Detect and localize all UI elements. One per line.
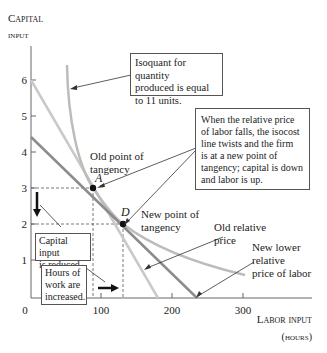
- x-axis-title-line2: (hours): [282, 331, 312, 343]
- y-axis-title-line2: input: [8, 29, 29, 40]
- twist-box-line: of labor falls, the isocost: [201, 126, 304, 138]
- svg-text:0: 0: [22, 304, 28, 316]
- svg-text:1: 1: [22, 254, 28, 266]
- isoquant-annotation-box: Isoquant for quantity produced is equal …: [130, 53, 223, 96]
- hours-increased-box: Hours of work are increased.: [41, 265, 87, 305]
- point-d-label: D: [120, 205, 130, 219]
- y-axis-title-line1: Capital: [8, 12, 43, 24]
- svg-text:4: 4: [22, 146, 28, 158]
- new-price-line: price of labor: [252, 267, 311, 280]
- new-tangency-line: New point of: [141, 208, 199, 221]
- svg-text:200: 200: [164, 304, 181, 316]
- svg-text:6: 6: [22, 74, 28, 86]
- capital-box-line: Capital input: [39, 235, 87, 259]
- new-tangency-line: tangency: [141, 221, 199, 234]
- old-tangency-line: tangency: [90, 163, 144, 176]
- svg-text:3: 3: [22, 182, 28, 194]
- hours-box-line: Hours of: [45, 267, 83, 279]
- twist-box-line: tangency; capital is down: [201, 162, 304, 174]
- svg-text:300: 300: [235, 304, 252, 316]
- price-change-annotation-box: When the relative price of labor falls, …: [195, 108, 310, 190]
- x-axis-title-line1: Labor input: [257, 313, 312, 325]
- old-tangency-line: Old point of: [90, 150, 144, 163]
- twist-box-line: and labor is up.: [201, 174, 304, 186]
- isoquant-box-line: Isoquant for quantity: [135, 57, 218, 82]
- y-tick-labels: 6 5 4 3 2 1: [22, 74, 28, 266]
- new-price-line: New lower: [252, 241, 311, 254]
- new-price-label: New lower relative price of labor: [252, 241, 311, 280]
- new-tangency-label: New point of tangency: [141, 208, 199, 234]
- twist-box-line: is at a new point of: [201, 150, 304, 162]
- hours-box-line: work are: [45, 279, 83, 291]
- old-tangency-label: Old point of tangency: [90, 150, 144, 176]
- twist-box-line: line twists and the firm: [201, 138, 304, 150]
- svg-text:5: 5: [22, 110, 28, 122]
- svg-text:100: 100: [93, 304, 110, 316]
- point-a-marker: [90, 185, 96, 191]
- callout-arrowheads: [70, 85, 202, 298]
- hours-box-line: increased.: [45, 291, 83, 303]
- x-ticks: [101, 293, 243, 298]
- isoquant-box-line: to 11 units.: [135, 95, 218, 108]
- isoquant-box-line: produced is equal: [135, 82, 218, 95]
- svg-text:2: 2: [22, 218, 28, 230]
- old-price-line: Old relative: [214, 221, 266, 234]
- capital-down-arrow: [33, 192, 41, 217]
- labor-right-arrow: [98, 284, 119, 292]
- new-price-line: relative: [252, 254, 311, 267]
- x-tick-labels: 0 100 200 300: [22, 304, 252, 316]
- capital-reduced-box: Capital input is reduced.: [35, 233, 91, 261]
- twist-box-line: When the relative price: [201, 114, 304, 126]
